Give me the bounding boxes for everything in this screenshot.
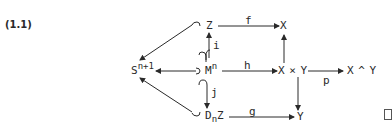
node-X: X	[280, 20, 287, 31]
manifold-base: M	[205, 64, 212, 77]
node-disk-bundle: DnZ	[205, 110, 224, 121]
label-i: i	[213, 40, 220, 51]
sphere-base: S	[131, 64, 138, 77]
node-Y: Y	[297, 111, 304, 122]
hook-M	[196, 68, 200, 74]
label-f: f	[245, 15, 252, 26]
node-product: X × Y	[278, 65, 306, 76]
disk-base: D	[205, 109, 212, 122]
manifold-superscript: n	[212, 61, 217, 71]
label-p: p	[323, 75, 330, 86]
node-Z: Z	[206, 20, 213, 31]
sphere-superscript: n+1	[138, 61, 154, 71]
arrow-Z-to-sphere	[140, 25, 192, 60]
label-g: g	[249, 106, 256, 117]
node-sphere: Sn+1	[131, 65, 154, 76]
label-h: h	[244, 60, 251, 71]
arrow-D-to-sphere	[140, 78, 192, 112]
diagram-arrows	[0, 0, 392, 130]
qed-symbol	[384, 109, 392, 120]
hook-Z	[192, 22, 200, 26]
node-smash: X ^ Y	[347, 65, 375, 76]
disk-tail: Z	[217, 109, 224, 122]
hook-j	[199, 80, 207, 85]
hook-D	[192, 112, 200, 116]
label-j: j	[211, 87, 218, 98]
node-manifold: Mn	[205, 65, 217, 76]
